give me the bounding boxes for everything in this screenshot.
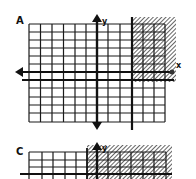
panel-a-y-label: y (102, 17, 108, 26)
panel-c-label: C (16, 146, 23, 157)
panel-c-y-label: y (102, 144, 108, 153)
graph-canvas: A (0, 0, 196, 179)
panel-c: C y (16, 142, 172, 179)
panel-a-label: A (16, 15, 24, 26)
panel-a: A (15, 14, 182, 130)
x-axis-left-arrow-icon (15, 67, 23, 77)
y-axis-up-arrow-icon (92, 14, 102, 22)
panel-a-x-label: x (176, 61, 182, 70)
x-axis-right-arrow-icon (170, 70, 175, 75)
y-axis-down-arrow-icon (92, 122, 102, 130)
